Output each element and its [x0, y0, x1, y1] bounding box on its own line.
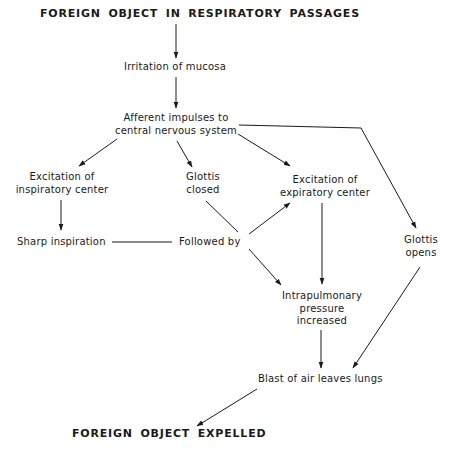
node-sharp-inspiration: Sharp inspiration: [17, 236, 106, 249]
node-glottis-closed-line1: Glottis: [178, 171, 228, 184]
node-insp-line2: inspiratory center: [12, 184, 112, 197]
node-blast-of-air: Blast of air leaves lungs: [258, 373, 383, 386]
node-glottis-opens-line1: Glottis: [398, 234, 444, 247]
node-intrapulmonary-line2: pressure: [278, 303, 366, 316]
node-glottis-opens: Glottis opens: [398, 234, 444, 259]
node-exp-line1: Excitation of: [275, 174, 375, 187]
node-afferent-line2: central nervous system: [112, 125, 240, 138]
cough-reflex-flowchart: FOREIGN OBJECT IN RESPIRATORY PASSAGES I…: [0, 0, 449, 450]
node-glottis-opens-line2: opens: [398, 247, 444, 260]
edge-afferent-to-glottis-closed: [177, 141, 192, 167]
node-glottis-closed: Glottis closed: [178, 171, 228, 196]
node-afferent-line1: Afferent impulses to: [112, 112, 240, 125]
node-excitation-expiratory-center: Excitation of expiratory center: [275, 174, 375, 199]
node-exp-line2: expiratory center: [275, 187, 375, 200]
edge-glottis-closed-to-followed-by: [206, 201, 238, 232]
node-intrapulmonary-pressure-increased: Intrapulmonary pressure increased: [278, 290, 366, 328]
edge-followed-by-to-intrapulmonary: [249, 249, 281, 285]
edge-afferent-to-exp-center: [238, 134, 290, 166]
node-intrapulmonary-line3: increased: [278, 315, 366, 328]
node-followed-by: Followed by: [179, 236, 241, 249]
edge-followed-by-to-exp-center: [249, 203, 290, 234]
edge-afferent-to-insp-center: [79, 139, 117, 166]
edge-blast-to-end: [197, 389, 257, 426]
node-glottis-closed-line2: closed: [178, 184, 228, 197]
node-insp-line1: Excitation of: [12, 171, 112, 184]
node-foreign-object-in-passages: FOREIGN OBJECT IN RESPIRATORY PASSAGES: [40, 8, 360, 21]
node-excitation-inspiratory-center: Excitation of inspiratory center: [12, 171, 112, 196]
node-afferent-impulses: Afferent impulses to central nervous sys…: [112, 112, 240, 137]
node-foreign-object-expelled: FOREIGN OBJECT EXPELLED: [72, 428, 266, 441]
node-intrapulmonary-line1: Intrapulmonary: [278, 290, 366, 303]
node-irritation-of-mucosa: Irritation of mucosa: [124, 61, 226, 74]
